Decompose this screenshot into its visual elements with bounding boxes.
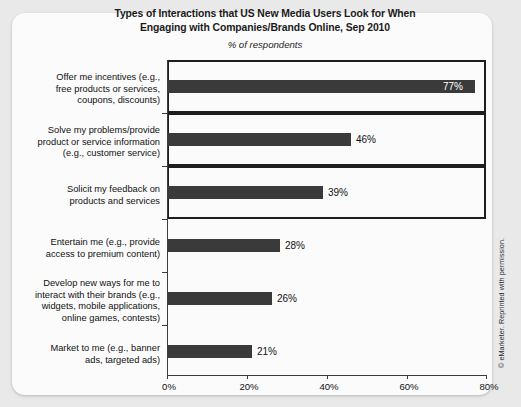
category-label-3-line-2: products and services <box>14 196 160 208</box>
category-label-2: Solve my problems/provide product or ser… <box>14 125 166 160</box>
category-labels: Offer me incentives (e.g., free products… <box>8 0 166 407</box>
y-axis-tick-3 <box>162 219 167 220</box>
category-label-3-line-1: Solicit my feedback on <box>14 184 160 196</box>
category-label-6: Market to me (e.g., banner ads, targeted… <box>14 343 166 366</box>
bar-4 <box>168 239 280 252</box>
category-label-4-line-2: access to premium content) <box>14 249 160 261</box>
y-axis-tick-2 <box>162 166 167 167</box>
category-label-1: Offer me incentives (e.g., free products… <box>14 72 166 107</box>
category-label-5-line-4: online games, contests) <box>14 313 160 325</box>
category-label-4-line-1: Entertain me (e.g., provide <box>14 237 160 249</box>
category-label-5: Develop new ways for me to interact with… <box>14 278 166 324</box>
plot-area: Offer me incentives (e.g., free products… <box>0 0 521 407</box>
x-axis-tick-20 <box>247 375 248 379</box>
y-axis-tick-4 <box>162 272 167 273</box>
copyright-notice: © eMarketer. Reprinted with permission. <box>497 238 506 368</box>
bar-value-5: 26% <box>277 292 297 305</box>
category-label-1-line-3: coupons, discounts) <box>14 95 160 107</box>
bar-value-1: 77% <box>443 80 463 93</box>
x-axis-tick-80 <box>486 375 487 379</box>
category-label-1-line-2: free products or services, <box>14 84 160 96</box>
y-axis-tick-5 <box>162 325 167 326</box>
category-label-5-line-3: widgets, mobile applications, <box>14 301 160 313</box>
category-label-5-line-2: interact with their brands (e.g., <box>14 290 160 302</box>
category-label-3: Solicit my feedback on products and serv… <box>14 184 166 207</box>
bar-value-4: 28% <box>285 239 305 252</box>
category-label-2-line-2: product or service information <box>14 137 160 149</box>
x-axis-tick-label-80: 80% <box>479 381 498 392</box>
category-label-1-line-1: Offer me incentives (e.g., <box>14 72 160 84</box>
x-axis-tick-0 <box>167 375 168 379</box>
x-axis-tick-label-60: 60% <box>399 381 418 392</box>
bar-5 <box>168 292 272 305</box>
category-label-2-line-1: Solve my problems/provide <box>14 125 160 137</box>
x-axis-tick-label-0: 0% <box>162 381 176 392</box>
bar-1 <box>168 80 475 93</box>
bar-3 <box>168 186 323 199</box>
category-label-6-line-1: Market to me (e.g., banner <box>14 343 160 355</box>
category-label-5-line-1: Develop new ways for me to <box>14 278 160 290</box>
y-axis-line <box>167 60 168 376</box>
x-axis-tick-label-20: 20% <box>239 381 258 392</box>
x-axis-tick-40 <box>327 375 328 379</box>
chart-screenshot: Types of Interactions that US New Media … <box>0 0 521 407</box>
category-label-6-line-2: ads, targeted ads) <box>14 355 160 367</box>
bar-value-6: 21% <box>257 345 277 358</box>
x-axis-tick-label-40: 40% <box>319 381 338 392</box>
category-label-4: Entertain me (e.g., provide access to pr… <box>14 237 166 260</box>
bar-6 <box>168 345 252 358</box>
x-axis-tick-60 <box>407 375 408 379</box>
bar-value-2: 46% <box>356 133 376 146</box>
bar-value-3: 39% <box>328 186 348 199</box>
category-label-2-line-3: (e.g., customer service) <box>14 148 160 160</box>
y-axis-tick-1 <box>162 113 167 114</box>
bar-2 <box>168 133 351 146</box>
